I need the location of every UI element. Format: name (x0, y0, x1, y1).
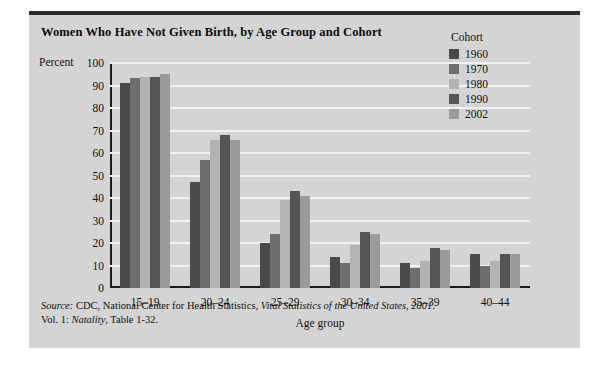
bar-2002 (230, 140, 240, 289)
y-tick-label: 90 (64, 80, 104, 92)
legend-item-2002: 2002 (449, 107, 488, 120)
bar-1960 (120, 83, 130, 288)
source-text-2-end: , Table 1-32. (105, 314, 158, 325)
legend-title: Cohort (451, 31, 488, 43)
legend-swatch-icon (449, 49, 459, 59)
bar-1960 (470, 254, 480, 288)
bar-1990 (430, 248, 440, 289)
bar-1970 (480, 266, 490, 289)
legend-item-1970: 1970 (449, 62, 488, 75)
y-tick-label: 10 (64, 260, 104, 272)
bar-1970 (270, 234, 280, 288)
y-tick-label: 50 (64, 170, 104, 182)
y-tick-label: 60 (64, 147, 104, 159)
bar-1970 (130, 78, 140, 288)
bar-1980 (210, 140, 220, 289)
bar-1980 (280, 200, 290, 288)
y-tick-label: 100 (64, 57, 104, 69)
source-label: Source: (41, 300, 73, 311)
bar-1990 (220, 135, 230, 288)
legend-swatch-icon (449, 94, 459, 104)
bar-1990 (290, 191, 300, 288)
top-rule (29, 11, 580, 15)
bar-2002 (300, 196, 310, 288)
bar-1980 (350, 245, 360, 288)
legend-swatch-icon (449, 109, 459, 119)
bar-1990 (150, 77, 160, 289)
source-text-2: Vol. 1: (41, 314, 71, 325)
y-tick-label: 70 (64, 125, 104, 137)
source-title-italic: Vital Statistics of the United States, 2… (261, 300, 433, 311)
bar-1970 (200, 160, 210, 288)
bar-1980 (490, 261, 500, 288)
bar-2002 (160, 74, 170, 288)
bar-1960 (190, 182, 200, 288)
legend-item-1980: 1980 (449, 77, 488, 90)
legend-item-1990: 1990 (449, 92, 488, 105)
bar-1960 (330, 257, 340, 289)
y-tick-label: 40 (64, 192, 104, 204)
bar-1980 (140, 77, 150, 289)
bar-group-30-34 (320, 63, 390, 288)
legend-label: 2002 (465, 108, 488, 120)
source-note: Source: CDC, National Center for Health … (41, 299, 561, 328)
bar-1960 (260, 243, 270, 288)
bar-1970 (410, 268, 420, 288)
y-tick-label: 20 (64, 237, 104, 249)
bar-1990 (360, 232, 370, 288)
legend-label: 1970 (465, 63, 488, 75)
y-tick-label: 80 (64, 102, 104, 114)
legend-label: 1990 (465, 93, 488, 105)
source-text-1-end: . (432, 300, 435, 311)
bar-group-20-24 (180, 63, 250, 288)
legend-swatch-icon (449, 79, 459, 89)
bar-2002 (440, 250, 450, 288)
legend-label: 1980 (465, 78, 488, 90)
bar-1980 (420, 261, 430, 288)
bar-2002 (510, 254, 520, 288)
legend-swatch-icon (449, 64, 459, 74)
y-tick-label: 30 (64, 215, 104, 227)
legend: Cohort 19601970198019902002 (449, 31, 488, 122)
bar-1970 (340, 263, 350, 288)
bar-2002 (370, 234, 380, 288)
source-subtitle-italic: Natality (71, 314, 105, 325)
figure-panel: Women Who Have Not Given Birth, by Age G… (29, 11, 580, 348)
source-text-1: CDC, National Center for Health Statisti… (73, 300, 261, 311)
bar-group-25-29 (250, 63, 320, 288)
legend-item-1960: 1960 (449, 47, 488, 60)
bar-1960 (400, 263, 410, 288)
legend-label: 1960 (465, 48, 488, 60)
y-tick-label: 0 (64, 282, 104, 294)
chart-title: Women Who Have Not Given Birth, by Age G… (41, 25, 382, 40)
bar-1990 (500, 254, 510, 288)
bar-group-15-19 (110, 63, 180, 288)
